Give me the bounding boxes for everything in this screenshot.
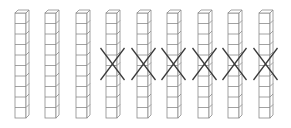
- ten-rod: [15, 10, 29, 118]
- ten-rod: [162, 10, 186, 118]
- ten-rod: [193, 10, 217, 118]
- ten-rod: [101, 10, 125, 118]
- ten-rod: [45, 10, 59, 118]
- ten-rod: [76, 10, 90, 118]
- rods-canvas: [0, 0, 291, 128]
- ten-rod: [254, 10, 278, 118]
- ten-rod: [223, 10, 247, 118]
- ten-rods-diagram: [0, 0, 291, 128]
- ten-rod: [132, 10, 156, 118]
